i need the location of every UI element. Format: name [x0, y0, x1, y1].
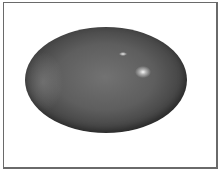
oval-stone-image [25, 27, 187, 133]
